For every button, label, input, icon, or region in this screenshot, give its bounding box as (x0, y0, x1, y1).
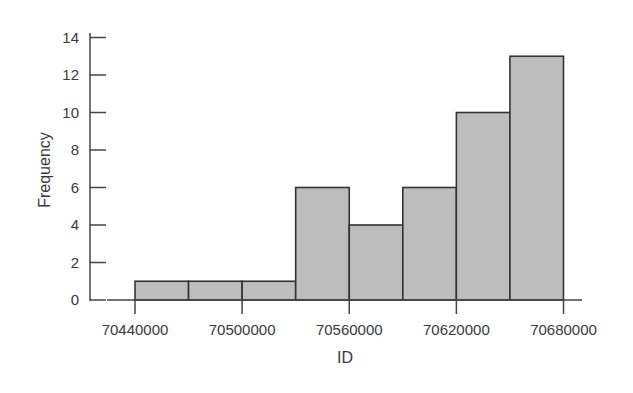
x-axis-label: ID (337, 349, 353, 366)
x-tick-label: 70440000 (102, 321, 169, 338)
histogram-bars (135, 56, 564, 300)
x-tick-label: 70500000 (209, 321, 276, 338)
histogram-bar (135, 281, 189, 300)
y-tick-label: 8 (71, 141, 79, 158)
y-axis-ticks: 02468101214 (62, 29, 106, 309)
y-tick-label: 0 (71, 291, 79, 308)
histogram-bar (296, 188, 350, 301)
y-tick-label: 2 (71, 254, 79, 271)
y-tick-label: 6 (71, 179, 79, 196)
x-tick-label: 70680000 (530, 321, 597, 338)
y-axis-label: Frequency (36, 132, 53, 208)
histogram-chart: 02468101214 7044000070500000705600007062… (0, 0, 633, 393)
histogram-bar (242, 281, 296, 300)
histogram-bar (510, 56, 564, 300)
x-axis-ticks: 7044000070500000705600007062000070680000 (102, 300, 597, 338)
histogram-bar (189, 281, 243, 300)
x-tick-label: 70560000 (316, 321, 383, 338)
y-tick-label: 14 (62, 29, 79, 46)
y-tick-label: 4 (71, 216, 79, 233)
x-tick-label: 70620000 (423, 321, 490, 338)
histogram-bar (456, 113, 510, 301)
histogram-bar (403, 188, 457, 301)
histogram-bar (349, 225, 403, 300)
y-tick-label: 12 (62, 66, 79, 83)
y-tick-label: 10 (62, 104, 79, 121)
